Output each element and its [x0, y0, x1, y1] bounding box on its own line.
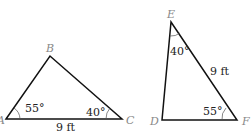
triangle-abc: B A C 55° 40° 9 ft [0, 42, 135, 132]
side-ef-length: 9 ft [210, 65, 230, 78]
side-ac-length: 9 ft [56, 121, 76, 132]
angle-f-measure: 55° [203, 105, 223, 118]
angle-e-measure: 40° [170, 45, 190, 58]
angle-a-measure: 55° [25, 102, 45, 115]
triangle-def: E D F 40° 55° 9 ft [149, 8, 250, 128]
vertex-a-label: A [0, 114, 5, 127]
angle-f-arc [222, 108, 226, 120]
vertex-f-label: F [241, 115, 250, 128]
vertex-d-label: D [149, 115, 159, 128]
vertex-e-label: E [166, 8, 175, 21]
angle-c-measure: 40° [86, 106, 106, 119]
vertex-b-label: B [45, 42, 54, 55]
vertex-c-label: C [126, 114, 135, 127]
angle-c-arc [106, 108, 110, 119]
diagram: B A C 55° 40° 9 ft E D F 40° 55° 9 ft [0, 0, 251, 132]
angle-a-arc [14, 108, 20, 119]
